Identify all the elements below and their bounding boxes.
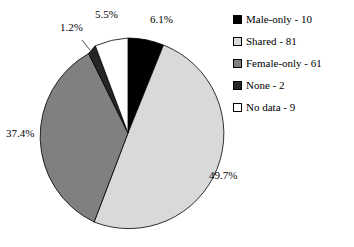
- pie-label-no-data: 5.5%: [95, 8, 118, 20]
- legend-label-no-data: No data - 9: [246, 101, 295, 114]
- legend-item-none[interactable]: None - 2: [233, 75, 354, 95]
- pie-plot-area: 6.1% 5.5% 1.2% 37.4% 49.7%: [0, 0, 236, 247]
- leader-line-none: [82, 40, 90, 50]
- pie-label-none: 1.2%: [60, 21, 83, 33]
- legend-item-no-data[interactable]: No data - 9: [233, 97, 354, 117]
- pie-chart: 6.1% 5.5% 1.2% 37.4% 49.7% Male-only - 1…: [0, 0, 354, 247]
- legend-swatch-none: [233, 81, 242, 90]
- pie-svg: [0, 0, 236, 247]
- legend-item-shared[interactable]: Shared - 81: [233, 31, 354, 51]
- pie-label-shared: 49.7%: [209, 169, 237, 181]
- legend-label-none: None - 2: [246, 79, 285, 92]
- legend-item-female-only[interactable]: Female-only - 61: [233, 53, 354, 73]
- legend-swatch-male-only: [233, 15, 242, 24]
- pie-label-male-only: 6.1%: [150, 13, 173, 25]
- legend-swatch-no-data: [233, 103, 242, 112]
- legend-swatch-female-only: [233, 59, 242, 68]
- chart-legend: Male-only - 10 Shared - 81 Female-only -…: [233, 9, 354, 119]
- legend-label-female-only: Female-only - 61: [246, 57, 322, 70]
- legend-label-shared: Shared - 81: [246, 35, 297, 48]
- legend-swatch-shared: [233, 37, 242, 46]
- pie-label-female-only: 37.4%: [6, 127, 34, 139]
- legend-item-male-only[interactable]: Male-only - 10: [233, 9, 354, 29]
- legend-label-male-only: Male-only - 10: [246, 13, 312, 26]
